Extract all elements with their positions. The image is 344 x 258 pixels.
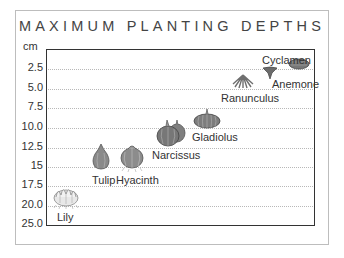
y-tick: 10.0 [18,120,43,132]
label-narcissus: Narcissus [152,149,200,161]
label-anemone: Anemone [272,78,319,90]
y-tick: 5.0 [18,81,43,93]
gridline-20-0 [48,206,313,207]
hyacinth-bulb-icon [119,142,145,172]
y-tick: 7.5 [18,100,43,112]
gridline-17-5 [48,186,313,187]
gladiolus-bulb-icon [193,109,221,129]
y-tick: 20.0 [18,198,43,210]
label-cyclamen: Cyclamen [262,54,311,66]
y-tick: 12.5 [18,140,43,152]
label-gladiolus: Gladiolus [192,131,238,143]
label-ranunculus: Ranunculus [221,92,279,104]
label-tulip: Tulip [92,174,115,186]
tulip-bulb-icon [91,143,111,171]
gridline-15 [48,167,313,168]
y-tick: 25.0 [18,217,43,229]
y-tick: 2.5 [18,61,43,73]
gridline-7-5 [48,108,313,109]
label-lily: Lily [57,211,74,223]
label-hyacinth: Hyacinth [116,174,159,186]
y-axis-unit: cm [23,40,38,52]
y-tick: 17.5 [18,178,43,190]
y-tick: 15 [18,159,43,171]
narcissus-bulb-icon [155,117,187,147]
chart-title: MAXIMUM PLANTING DEPTHS [15,18,329,34]
lily-bulb-icon [52,183,80,209]
ranunculus-bulb-icon [232,73,254,89]
